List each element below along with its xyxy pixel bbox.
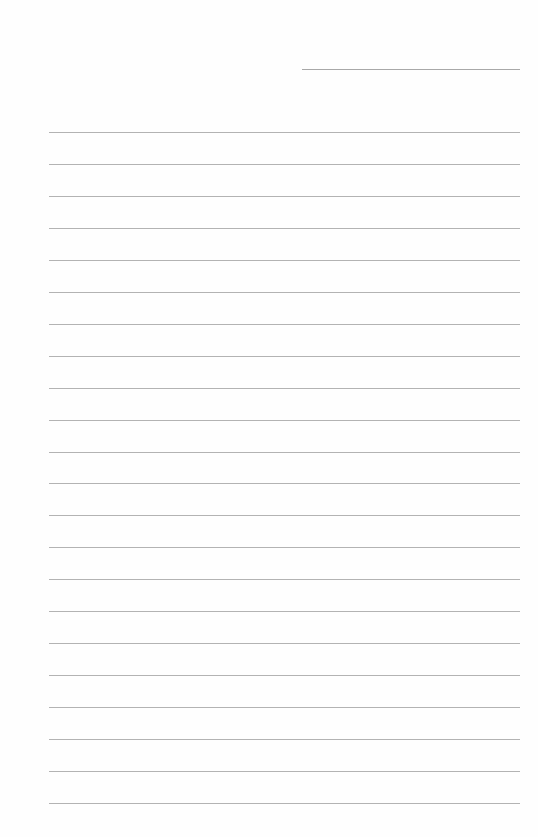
- ruled-line: [49, 739, 520, 740]
- ruled-line: [49, 324, 520, 325]
- ruled-line: [49, 388, 520, 389]
- header-date-line: [302, 69, 520, 70]
- ruled-line: [49, 771, 520, 772]
- ruled-line: [49, 547, 520, 548]
- ruled-line: [49, 515, 520, 516]
- ruled-line: [49, 452, 520, 453]
- ruled-line: [49, 643, 520, 644]
- ruled-line: [49, 579, 520, 580]
- ruled-line: [49, 803, 520, 804]
- lined-paper-page: [0, 0, 538, 837]
- ruled-line: [49, 675, 520, 676]
- ruled-line: [49, 707, 520, 708]
- ruled-line: [49, 228, 520, 229]
- ruled-line: [49, 611, 520, 612]
- ruled-line: [49, 292, 520, 293]
- ruled-line: [49, 483, 520, 484]
- ruled-line: [49, 196, 520, 197]
- ruled-line: [49, 132, 520, 133]
- ruled-line: [49, 356, 520, 357]
- ruled-line: [49, 164, 520, 165]
- ruled-line: [49, 260, 520, 261]
- ruled-line: [49, 420, 520, 421]
